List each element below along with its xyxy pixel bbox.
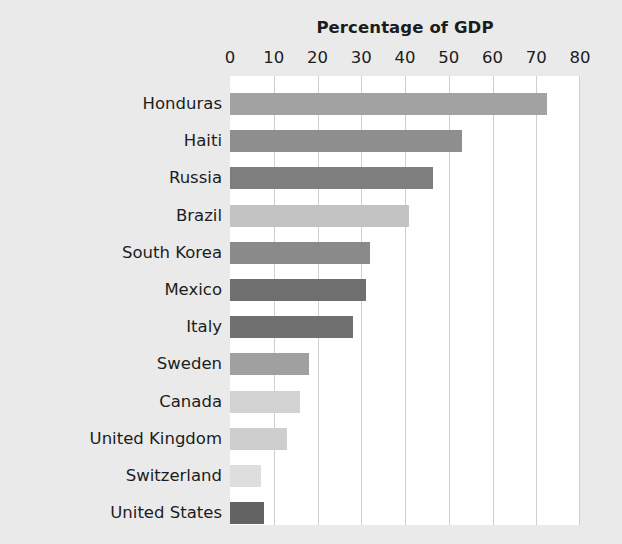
bar: [230, 353, 309, 375]
bar: [230, 428, 287, 450]
bar-fill: [230, 316, 353, 338]
bar-fill: [230, 428, 287, 450]
bar: [230, 130, 462, 152]
y-tick-label: United Kingdom: [90, 428, 222, 450]
x-tick-label: 20: [307, 48, 328, 67]
y-tick-label: Sweden: [157, 353, 222, 375]
y-tick-label: Brazil: [176, 205, 222, 227]
x-tick-label: 40: [395, 48, 416, 67]
x-tick-label: 80: [570, 48, 591, 67]
x-axis-tick-labels: 01020304050607080: [230, 48, 580, 72]
y-tick-label: Switzerland: [126, 465, 222, 487]
bar: [230, 205, 409, 227]
gridline: [536, 76, 537, 525]
y-tick-label: Honduras: [143, 93, 222, 115]
y-tick-label: Russia: [169, 167, 222, 189]
x-tick-label: 70: [526, 48, 547, 67]
bar-fill: [230, 167, 433, 189]
bar-fill: [230, 391, 300, 413]
bar-fill: [230, 353, 309, 375]
bar: [230, 391, 300, 413]
bar: [230, 279, 366, 301]
bar-fill: [230, 93, 547, 115]
bar-fill: [230, 502, 264, 524]
bar-fill: [230, 242, 370, 264]
bar-fill: [230, 205, 409, 227]
x-tick-label: 60: [482, 48, 503, 67]
y-tick-label: Haiti: [184, 130, 222, 152]
gridline: [493, 76, 494, 525]
bar: [230, 465, 261, 487]
x-tick-label: 10: [263, 48, 284, 67]
y-tick-label: United States: [110, 502, 222, 524]
bar: [230, 167, 433, 189]
y-tick-label: Mexico: [164, 279, 222, 301]
bar: [230, 93, 547, 115]
gridline: [579, 76, 580, 525]
x-tick-label: 30: [351, 48, 372, 67]
y-tick-label: Canada: [159, 391, 222, 413]
y-tick-label: Italy: [186, 316, 222, 338]
bar: [230, 502, 264, 524]
bar-fill: [230, 279, 366, 301]
x-tick-label: 0: [225, 48, 236, 67]
bar-chart: Percentage of GDP 01020304050607080 Hond…: [0, 0, 622, 544]
y-axis-category-labels: HondurasHaitiRussiaBrazilSouth KoreaMexi…: [0, 76, 222, 525]
x-tick-label: 50: [438, 48, 459, 67]
chart-title: Percentage of GDP: [230, 18, 580, 37]
plot-area: [230, 76, 580, 525]
y-tick-label: South Korea: [122, 242, 222, 264]
bar: [230, 242, 370, 264]
bar-fill: [230, 465, 261, 487]
bar: [230, 316, 353, 338]
bar-fill: [230, 130, 462, 152]
